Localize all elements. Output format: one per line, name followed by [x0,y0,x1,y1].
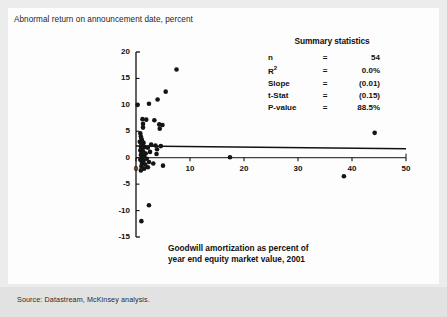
x-axis-tick-label: 0 [126,164,146,173]
summary-equals: = [314,101,336,113]
y-axis-tick-label: 5 [104,126,130,135]
summary-value: 54 [336,51,396,63]
summary-row: R2=0.0% [268,63,396,77]
x-axis-tick-label: 50 [396,164,416,173]
y-axis-tick-label: 0 [104,153,130,162]
y-axis-tick-label: 20 [104,47,130,56]
summary-equals: = [314,89,336,101]
summary-title: Summary statistics [268,36,396,46]
y-axis-tick-label: 15 [104,73,130,82]
summary-key: R2 [268,63,314,77]
summary-row: t-Stat=(0.15) [268,89,396,101]
summary-equals: = [314,51,336,63]
summary-key: Slope [268,77,314,89]
summary-row: n=54 [268,51,396,63]
summary-key: t-Stat [268,89,314,101]
summary-value: (0.15) [336,89,396,101]
summary-row: Slope=(0.01) [268,77,396,89]
x-axis-tick-label: 40 [342,164,362,173]
summary-value: (0.01) [336,77,396,89]
summary-key: P-value [268,101,314,113]
page-title: Abnormal return on announcement date, pe… [14,15,193,24]
summary-key: n [268,51,314,63]
x-axis-caption: Goodwill amortization as percent of year… [168,243,309,264]
x-axis-caption-line2: year end equity market value, 2001 [168,254,309,265]
source-note: Source: Datastream, McKinsey analysis. [17,295,150,304]
x-axis-tick-label: 10 [180,164,200,173]
summary-equals: = [314,63,336,77]
summary-statistics-box: Summary statistics n=54R2=0.0%Slope=(0.0… [268,36,396,114]
summary-value: 0.0% [336,63,396,77]
summary-value: 88.5% [336,101,396,113]
x-axis-tick-label: 30 [288,164,308,173]
y-axis-tick-label: -5 [104,179,130,188]
summary-row: P-value=88.5% [268,101,396,113]
summary-equals: = [314,77,336,89]
y-axis-tick-label: -15 [104,232,130,241]
summary-table: n=54R2=0.0%Slope=(0.01)t-Stat=(0.15)P-va… [268,51,396,114]
y-axis-tick-label: -10 [104,206,130,215]
x-axis-caption-line1: Goodwill amortization as percent of [168,243,309,254]
x-axis-tick-label: 20 [234,164,254,173]
y-axis-tick-label: 10 [104,100,130,109]
exhibit-container: Abnormal return on announcement date, pe… [0,0,447,317]
